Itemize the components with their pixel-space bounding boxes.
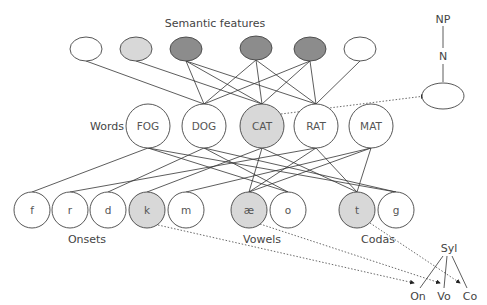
letter-node-r: r	[52, 192, 88, 228]
word-letter-edge	[249, 148, 316, 192]
vowels-label: Vowels	[243, 233, 281, 246]
onset-slot-label: On	[410, 290, 426, 303]
word-letter-edge	[32, 148, 148, 192]
letter-node-d: d	[90, 192, 126, 228]
word-letter-edge	[249, 148, 262, 192]
word-letter-edge	[108, 148, 204, 192]
node-label: k	[144, 204, 151, 216]
node-label: MAT	[360, 120, 382, 132]
word-letter-edge	[249, 148, 371, 192]
node-label: RAT	[306, 120, 326, 132]
word-node-dog: DOG	[182, 104, 226, 148]
node-label: t	[355, 204, 359, 216]
semantic-feature-node	[344, 37, 376, 61]
letter-node-f: f	[14, 192, 50, 228]
node-label: æ	[244, 204, 254, 216]
ae-to-vowel-arrow	[260, 224, 440, 283]
letter-node-ae: æ	[231, 192, 267, 228]
semantic-feature-node	[120, 37, 152, 61]
node-label: r	[68, 204, 73, 216]
semantic-features-label: Semantic features	[165, 17, 266, 30]
nodes: FOGDOGCATRATMATfrdkmæotg	[14, 36, 414, 228]
word-letter-edge	[147, 148, 262, 192]
node-label: o	[285, 204, 291, 216]
interactive-activation-diagram: NP N Syl On Vo Co FOGDOGCATRATMATfrdkmæo…	[0, 0, 487, 305]
semantic-edge	[316, 61, 360, 104]
vowel-slot-label: Vo	[437, 290, 451, 303]
semantic-edge	[86, 61, 204, 104]
node-label: CAT	[252, 120, 273, 132]
node-label: d	[105, 204, 112, 216]
node-label: FOG	[137, 120, 159, 132]
semantic-edge	[262, 61, 310, 104]
semantic-feature-node	[170, 37, 202, 61]
diagram-canvas: NP N Syl On Vo Co FOGDOGCATRATMATfrdkmæo…	[0, 0, 487, 305]
semantic-feature-node	[294, 37, 326, 61]
word-node-fog: FOG	[126, 104, 170, 148]
syllable-tree: Syl On Vo Co	[410, 242, 477, 303]
codas-label: Codas	[361, 233, 395, 246]
word-node-rat: RAT	[294, 104, 338, 148]
word-node-cat: CAT	[240, 104, 284, 148]
onsets-label: Onsets	[68, 233, 106, 246]
node-label: m	[181, 204, 191, 216]
word-letter-edge	[204, 148, 396, 192]
letter-node-o: o	[270, 192, 306, 228]
semantic-edge	[186, 61, 204, 104]
node-label: DOG	[192, 120, 217, 132]
noun-node	[422, 83, 464, 109]
words-label: Words	[90, 120, 124, 133]
semantic-edge	[136, 61, 262, 104]
letter-node-g: g	[378, 192, 414, 228]
semantic-edge	[310, 61, 316, 104]
np-tree: NP N	[422, 13, 464, 109]
coda-slot-label: Co	[463, 290, 478, 303]
syl-label: Syl	[441, 242, 458, 255]
n-label: N	[439, 50, 447, 63]
word-letter-edge	[316, 148, 357, 192]
np-label: NP	[436, 13, 451, 26]
letter-node-m: m	[168, 192, 204, 228]
semantic-edge	[204, 60, 256, 104]
semantic-feature-node	[240, 36, 272, 60]
letter-node-k: k	[129, 192, 165, 228]
semantic-feature-node	[70, 37, 102, 61]
letter-node-t: t	[339, 192, 375, 228]
node-label: f	[30, 204, 34, 216]
word-node-mat: MAT	[349, 104, 393, 148]
node-label: g	[393, 204, 400, 216]
